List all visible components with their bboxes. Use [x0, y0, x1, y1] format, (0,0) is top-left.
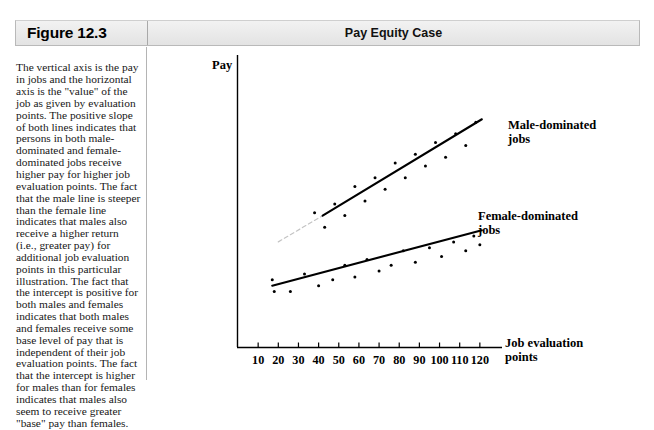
x-axis-tick-label-110: 110	[451, 353, 469, 368]
figure-number-label: Figure 12.3	[16, 21, 147, 45]
x-axis-tick-label-60: 60	[353, 353, 365, 368]
data-point	[384, 188, 387, 191]
female-series-label: Female-dominated jobs	[478, 209, 578, 237]
data-point	[317, 284, 320, 287]
data-point	[414, 261, 417, 264]
x-axis-tick-label-120: 120	[471, 353, 489, 368]
data-point	[464, 144, 467, 147]
data-point	[424, 164, 427, 167]
data-point	[394, 162, 397, 165]
female-trend-line	[272, 230, 482, 285]
x-axis-tick-marks	[258, 343, 480, 348]
figure-caption: The vertical axis is the pay in jobs and…	[16, 62, 142, 429]
x-axis-tick-label-100: 100	[430, 353, 448, 368]
data-point	[303, 273, 306, 276]
figure-title: Pay Equity Case	[148, 21, 639, 45]
female-data-points	[271, 235, 482, 293]
male-series-label: Male-dominated jobs	[508, 118, 596, 146]
female-series-label-line-2: jobs	[478, 223, 500, 237]
pay-equity-scatter-chart: Pay Job evaluation points Male-dominated…	[190, 47, 654, 390]
data-point	[271, 278, 274, 281]
x-axis-tick-label-70: 70	[373, 353, 385, 368]
male-series-label-line-1: Male-dominated	[508, 118, 596, 132]
male-series-label-line-2: jobs	[508, 132, 530, 146]
data-point	[343, 214, 346, 217]
x-axis-title: Job evaluation points	[505, 336, 625, 364]
data-point	[434, 141, 437, 144]
data-point	[313, 211, 316, 214]
data-point	[333, 202, 336, 205]
data-point	[273, 290, 276, 293]
caption-figure-divider	[146, 47, 147, 380]
data-point	[363, 200, 366, 203]
male-trend-line	[323, 119, 482, 215]
figure-header-band: Figure 12.3 Pay Equity Case	[15, 20, 640, 46]
x-axis-tick-label-90: 90	[413, 353, 425, 368]
trend-line-segment	[272, 230, 482, 285]
data-point	[414, 153, 417, 156]
female-series-label-line-1: Female-dominated	[478, 209, 578, 223]
x-axis-tick-label-10: 10	[252, 353, 264, 368]
data-point	[353, 185, 356, 188]
data-point	[428, 246, 431, 249]
x-axis-tick-label-50: 50	[333, 353, 345, 368]
data-point	[390, 264, 393, 267]
data-point	[464, 249, 467, 252]
data-point	[289, 290, 292, 293]
data-point	[374, 176, 377, 179]
x-axis-title-line-2: points	[505, 350, 538, 364]
data-point	[472, 235, 475, 238]
data-point	[452, 240, 455, 243]
data-point	[323, 226, 326, 229]
data-point	[440, 255, 443, 258]
data-point	[353, 275, 356, 278]
x-axis-tick-label-20: 20	[272, 353, 284, 368]
x-axis-title-line-1: Job evaluation	[505, 336, 583, 350]
chart-series-layer	[271, 119, 482, 293]
trend-line-segment	[278, 216, 322, 242]
x-axis-tick-label-80: 80	[393, 353, 405, 368]
x-axis-tick-label-30: 30	[292, 353, 304, 368]
data-point	[331, 278, 334, 281]
data-point	[378, 270, 381, 273]
male-trend-line-extension	[278, 216, 322, 242]
y-axis-title: Pay	[212, 58, 232, 73]
x-axis-tick-label-40: 40	[313, 353, 325, 368]
data-point	[404, 176, 407, 179]
data-point	[444, 156, 447, 159]
data-point	[478, 243, 481, 246]
trend-line-segment	[323, 119, 482, 215]
chart-axes	[237, 55, 502, 348]
